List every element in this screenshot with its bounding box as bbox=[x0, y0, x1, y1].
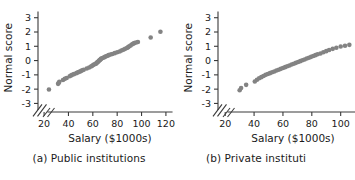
plot-area-b: 3210-1-2-320406080100Salary ($1000s)Norm… bbox=[180, 0, 355, 152]
panel-caption-a: (a) Public institutions bbox=[0, 152, 178, 164]
data-point bbox=[244, 83, 249, 88]
x-axis-title: Salary ($1000s) bbox=[68, 132, 151, 144]
data-point bbox=[148, 35, 153, 40]
panel-public-institutions: 3210-1-2-320406080100120Salary ($1000s)N… bbox=[0, 0, 178, 180]
x-axis-tick-label: 120 bbox=[157, 118, 175, 129]
data-point bbox=[343, 43, 348, 48]
y-axis-title: Normal score bbox=[182, 23, 194, 93]
x-axis-tick-label: 20 bbox=[219, 118, 231, 129]
y-axis-tick-label: 3 bbox=[205, 12, 211, 23]
y-axis-tick-label: -3 bbox=[202, 98, 211, 109]
data-point bbox=[338, 44, 343, 49]
data-point bbox=[239, 86, 244, 91]
data-point bbox=[334, 45, 339, 50]
data-point bbox=[347, 43, 352, 48]
y-axis-tick-label: 1 bbox=[25, 41, 31, 52]
figure-normal-probability-plots: 3210-1-2-320406080100120Salary ($1000s)N… bbox=[0, 0, 355, 180]
data-point bbox=[47, 87, 52, 92]
y-axis-tick-label: 3 bbox=[25, 12, 31, 23]
scatter-plot-a: 3210-1-2-320406080100120Salary ($1000s)N… bbox=[0, 0, 178, 152]
x-axis-tick-label: 60 bbox=[87, 118, 99, 129]
x-axis-tick-label: 100 bbox=[332, 118, 350, 129]
x-axis-tick-label: 40 bbox=[248, 118, 260, 129]
y-axis-tick-label: 0 bbox=[25, 55, 31, 66]
x-axis-tick-label: 60 bbox=[277, 118, 289, 129]
x-axis-tick-label: 80 bbox=[306, 118, 318, 129]
data-point-group bbox=[47, 29, 163, 91]
data-point-group bbox=[237, 43, 351, 93]
panel-caption-b: (b) Private instituti bbox=[180, 152, 355, 164]
plot-area-a: 3210-1-2-320406080100120Salary ($1000s)N… bbox=[0, 0, 178, 152]
y-axis-tick-label: 2 bbox=[205, 26, 211, 37]
x-axis-tick-label: 40 bbox=[62, 118, 74, 129]
y-axis-tick-label: -1 bbox=[202, 69, 211, 80]
y-axis-title: Normal score bbox=[2, 23, 14, 93]
y-axis-tick-label: -1 bbox=[22, 69, 31, 80]
data-point bbox=[158, 29, 163, 34]
y-axis-tick-label: -2 bbox=[202, 84, 211, 95]
data-point bbox=[136, 40, 141, 45]
y-axis-tick-label: 2 bbox=[25, 26, 31, 37]
y-axis-tick-label: 1 bbox=[205, 41, 211, 52]
y-axis-tick-label: 0 bbox=[205, 55, 211, 66]
panel-private-institutions: 3210-1-2-320406080100Salary ($1000s)Norm… bbox=[180, 0, 355, 180]
x-axis-tick-label: 100 bbox=[132, 118, 150, 129]
x-axis-tick-label: 80 bbox=[111, 118, 123, 129]
scatter-plot-b: 3210-1-2-320406080100Salary ($1000s)Norm… bbox=[180, 0, 355, 152]
x-axis-tick-label: 20 bbox=[38, 118, 50, 129]
y-axis-tick-label: -2 bbox=[22, 84, 31, 95]
x-axis-title: Salary ($1000s) bbox=[251, 132, 334, 144]
y-axis-tick-label: -3 bbox=[22, 98, 31, 109]
